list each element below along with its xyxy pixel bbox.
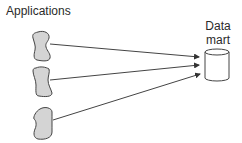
application-shape-3 bbox=[34, 108, 52, 140]
arrow-app3-to-mart bbox=[53, 74, 200, 120]
diagram-canvas bbox=[0, 0, 242, 143]
data-mart-cylinder-icon bbox=[205, 49, 229, 81]
application-shape-1 bbox=[33, 31, 50, 61]
application-shape-2 bbox=[33, 67, 52, 97]
arrow-app2-to-mart bbox=[50, 65, 199, 80]
arrow-app1-to-mart bbox=[50, 44, 199, 57]
